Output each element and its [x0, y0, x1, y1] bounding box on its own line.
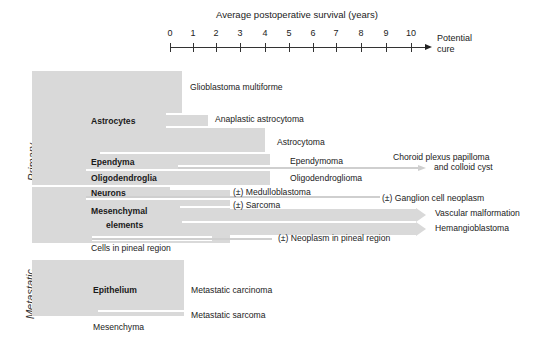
tumor-label-glioblastoma: Glioblastoma multiforme — [190, 82, 283, 92]
tumor-label-met-sarcoma: Metastatic sarcoma — [191, 310, 266, 320]
tumor-label-medulloblastoma: (±) Medulloblastoma — [233, 187, 311, 197]
tumor-label-hemangioblastoma: Hemangioblastoma — [435, 223, 509, 233]
axis-tick-label: 6 — [303, 28, 323, 38]
axis-tick-label: 0 — [160, 28, 180, 38]
tumor-label-vascular: Vascular malformation — [435, 208, 520, 218]
arrow-choroid-icon — [418, 165, 426, 171]
cell-label-mesenchymal: elements — [106, 220, 143, 230]
cell-label-epithelium: Epithelium — [93, 285, 137, 295]
cell-label-pineal: Cells in pineal region — [91, 243, 171, 253]
axis-tick-label: 2 — [206, 28, 226, 38]
axis-end-label: cure — [437, 44, 455, 54]
axis-tick — [265, 43, 266, 52]
tumor-label-ependymoma: Ependymoma — [290, 156, 343, 166]
arrow-vascular-icon — [416, 208, 426, 222]
arrow-hemangioblastoma-icon — [416, 222, 426, 236]
axis-end-label: Potential — [437, 33, 472, 43]
axis-tick-label: 9 — [376, 28, 396, 38]
cell-label-mesenchyma: Mesenchyma — [93, 322, 144, 332]
axis-tick — [193, 43, 194, 52]
bar-vascular-malformation — [182, 209, 416, 221]
separator — [92, 240, 212, 241]
axis-tick — [313, 43, 314, 52]
tumor-label-astrocytoma: Astrocytoma — [277, 137, 325, 147]
axis-tick — [216, 43, 217, 52]
axis-title: Average postoperative survival (years) — [216, 10, 378, 20]
axis-tick-label: 4 — [255, 28, 275, 38]
axis-tick-label: 10 — [401, 28, 421, 38]
axis-tick-label: 3 — [230, 28, 250, 38]
bar-metastatic-sarcoma — [98, 312, 184, 314]
axis-line — [170, 47, 428, 48]
bar-astrocytoma — [166, 128, 265, 152]
axis-tick — [170, 43, 171, 52]
tumor-label-anaplastic: Anaplastic astrocytoma — [215, 114, 304, 124]
tumor-label-pineal: (±) Neoplasm in pineal region — [278, 233, 390, 243]
axis-arrow-icon — [425, 44, 432, 50]
axis-tick — [361, 43, 362, 52]
tumor-label-ganglion: (±) Ganglion cell neoplasm — [382, 193, 484, 203]
axis-tick — [336, 43, 337, 52]
tumor-label-choroid: and colloid cyst — [434, 162, 493, 172]
bar-anaplastic-astrocytoma — [166, 115, 208, 126]
axis-tick-label: 5 — [279, 28, 299, 38]
cell-label-oligodendroglia: Oligodendroglia — [91, 173, 157, 183]
axis-tick-label: 1 — [183, 28, 203, 38]
axis-tick — [289, 43, 290, 52]
cell-label-ependyma: Ependyma — [91, 157, 134, 167]
axis-tick — [240, 43, 241, 52]
cell-label-neurons: Neurons — [91, 188, 126, 198]
cell-label-astrocytes: Astrocytes — [91, 116, 135, 126]
tumor-label-met-carcinoma: Metastatic carcinoma — [191, 285, 272, 295]
axis-tick-label: 7 — [326, 28, 346, 38]
axis-tick — [386, 43, 387, 52]
axis-tick-label: 8 — [351, 28, 371, 38]
tumor-label-oligodendroglioma: Oligodendroglioma — [290, 173, 362, 183]
tumor-label-sarcoma: (±) Sarcoma — [233, 200, 280, 210]
separator — [180, 206, 232, 208]
cell-label-mesenchymal: Mesenchymal — [91, 206, 147, 216]
axis-tick — [411, 43, 412, 52]
tumor-label-choroid: Choroid plexus papilloma — [393, 152, 490, 162]
